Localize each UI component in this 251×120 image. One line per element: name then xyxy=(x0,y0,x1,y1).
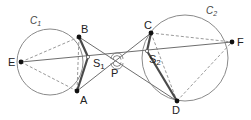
point-d xyxy=(175,99,180,104)
solid-lines xyxy=(21,33,232,101)
point-e xyxy=(19,60,24,65)
line-bd xyxy=(79,37,177,101)
dashed-segment-eb xyxy=(21,37,79,62)
geometry-diagram: C1 C2 E B A C D F P S1 S2 xyxy=(0,0,251,120)
angle-arc-bottom xyxy=(113,62,121,66)
point-f xyxy=(230,40,235,45)
dashed-lines xyxy=(21,33,232,101)
point-b xyxy=(77,35,82,40)
line-ac xyxy=(77,33,151,91)
label-point-s2: S2 xyxy=(149,53,161,67)
point-c xyxy=(149,31,154,36)
dashed-segment-df xyxy=(177,42,232,101)
point-a xyxy=(75,89,80,94)
label-circle-c1: C1 xyxy=(30,15,41,27)
label-point-d: D xyxy=(172,104,180,116)
label-point-a: A xyxy=(80,94,88,106)
label-point-c: C xyxy=(144,19,152,31)
dashed-segment-cd xyxy=(151,33,177,101)
label-point-f: F xyxy=(237,36,244,48)
label-point-b: B xyxy=(81,23,88,35)
points xyxy=(19,31,235,104)
label-point-p: P xyxy=(111,67,118,79)
circle-c1 xyxy=(17,29,83,95)
label-point-e: E xyxy=(8,56,15,68)
label-point-s1: S1 xyxy=(93,57,105,71)
point-s1 xyxy=(86,55,89,58)
label-circle-c2: C2 xyxy=(206,5,217,17)
dashed-segment-cf xyxy=(151,33,232,42)
dashed-segment-ea xyxy=(21,62,77,91)
